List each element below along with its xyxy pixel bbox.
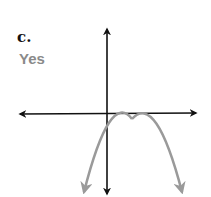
parabola-graph [0,0,211,197]
parabola-curve [84,113,182,192]
x-axis [20,113,196,114]
